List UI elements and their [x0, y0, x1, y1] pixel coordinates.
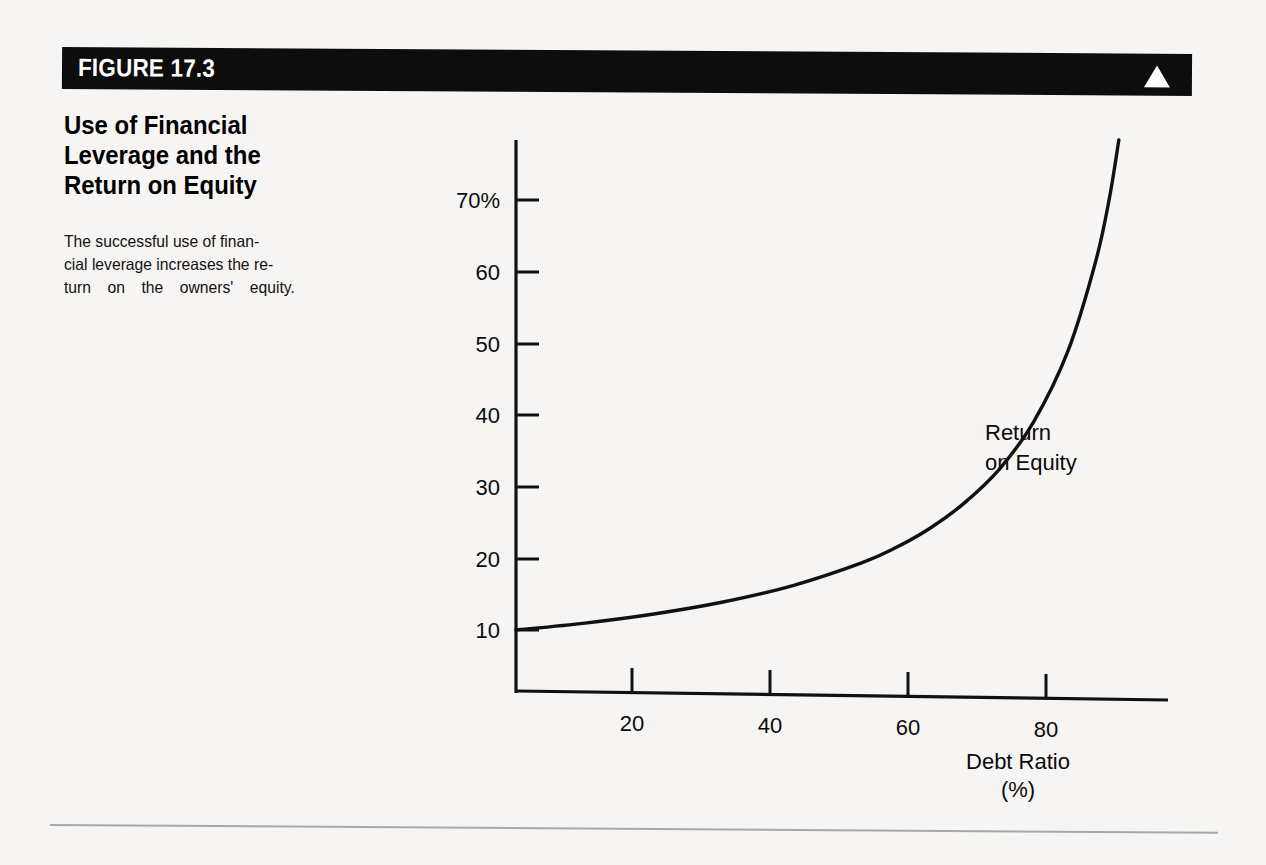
x-tick-label-20: 20: [620, 711, 644, 736]
series-annotation-line-2: on Equity: [985, 450, 1077, 475]
y-tick-label-60: 60: [476, 260, 500, 285]
figure-caption-line: The successful use of finan-: [64, 230, 295, 253]
figure-heading-line: Use of Financial: [64, 110, 294, 140]
x-tick-label-60: 60: [896, 715, 920, 740]
figure-heading-line: Leverage and the: [64, 140, 294, 170]
x-tick-label-40: 40: [758, 713, 782, 738]
y-tick-label-50: 50: [476, 332, 500, 357]
figure-number-label: FIGURE 17.3: [78, 53, 215, 83]
page-divider-rule: [50, 824, 1218, 834]
x-axis-line: [516, 691, 1168, 700]
y-tick-label-30: 30: [476, 475, 500, 500]
figure-heading-line: Return on Equity: [64, 170, 294, 200]
y-axis-ticks: [516, 200, 539, 630]
y-tick-label-10: 10: [476, 618, 500, 643]
return-on-equity-curve: [516, 140, 1119, 630]
y-tick-label-20: 20: [476, 547, 500, 572]
x-tick-label-80: 80: [1034, 717, 1058, 742]
figure-caption-line: cial leverage increases the re-: [64, 253, 295, 276]
figure-caption-line: turn on the owners' equity.: [64, 276, 295, 299]
figure-banner: FIGURE 17.3: [62, 47, 1192, 96]
figure-caption: The successful use of finan- cial levera…: [64, 230, 295, 299]
x-axis-title: Debt Ratio: [966, 749, 1070, 774]
figure-page: FIGURE 17.3 Use of Financial Leverage an…: [0, 0, 1266, 865]
x-axis-unit: (%): [1001, 777, 1035, 802]
y-tick-label-40: 40: [476, 403, 500, 428]
triangle-up-icon: [1144, 65, 1170, 87]
figure-heading: Use of Financial Leverage and the Return…: [64, 110, 294, 200]
x-axis-ticks: [632, 668, 1046, 699]
series-annotation-line-1: Return: [985, 420, 1051, 445]
y-tick-label-70: 70%: [456, 188, 500, 213]
